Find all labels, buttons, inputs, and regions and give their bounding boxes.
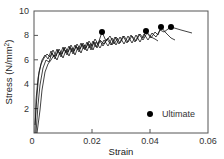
x-tick-label: 0.06 — [199, 136, 217, 146]
y-tick-label: 8 — [24, 30, 29, 40]
x-axis-label: Strain — [109, 146, 134, 157]
ultimate-marker — [158, 24, 164, 30]
x-axis — [92, 129, 150, 133]
ultimate-marker — [143, 28, 149, 34]
legend-marker-icon — [147, 111, 153, 117]
legend: Ultimate — [147, 109, 195, 119]
x-tick-label: 0.02 — [83, 136, 101, 146]
legend-label: Ultimate — [162, 109, 195, 119]
y-tick-label: 2 — [24, 104, 29, 114]
curve-specimen-2 — [35, 31, 158, 125]
y-tick-label: 10 — [19, 6, 29, 16]
y-tick-label: 4 — [24, 79, 29, 89]
ultimate-marker — [99, 29, 105, 35]
y-tick-label: 6 — [24, 55, 29, 65]
x-tick-label: 0.04 — [141, 136, 159, 146]
ultimate-marker — [168, 24, 174, 30]
x-tick-label: 0 — [29, 136, 34, 146]
stress-strain-chart: 2 4 6 8 10 0 0.02 0.04 0.06 Strain Stres… — [0, 0, 224, 159]
y-axis-label: Stress (N/mm2) — [3, 40, 14, 105]
